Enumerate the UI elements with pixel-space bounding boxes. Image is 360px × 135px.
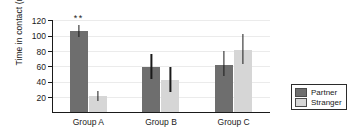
bar-wrapper bbox=[89, 20, 107, 112]
y-axis-title: Time in contact (min) bbox=[14, 0, 24, 80]
bar-chart-figure: Time in contact (min) 20406080100120**Gr… bbox=[0, 0, 360, 135]
error-bar bbox=[97, 91, 98, 101]
bar-group: **Group A bbox=[52, 20, 125, 112]
y-axis-tick-label: 40 bbox=[37, 77, 46, 87]
bar-wrapper bbox=[234, 20, 252, 112]
bar-group: Group C bbox=[197, 20, 270, 112]
legend-swatch-stranger bbox=[295, 98, 307, 107]
legend-label-stranger: Stranger bbox=[311, 98, 342, 107]
y-axis-tick-label: 80 bbox=[37, 47, 46, 57]
legend-item-partner: Partner bbox=[295, 87, 342, 97]
chart-legend: Partner Stranger bbox=[291, 84, 347, 110]
y-axis-tick-label: 100 bbox=[32, 31, 46, 41]
x-axis-label: Group A bbox=[73, 117, 104, 127]
y-axis-tick-label: 20 bbox=[37, 93, 46, 103]
error-bar bbox=[243, 34, 244, 64]
error-bar bbox=[78, 25, 79, 37]
bar-partner-group-a bbox=[70, 31, 88, 112]
y-axis-tick-label: 120 bbox=[32, 16, 46, 26]
plot-area: 20406080100120**Group AGroup BGroup C bbox=[52, 20, 270, 113]
bar-wrapper bbox=[215, 20, 233, 112]
legend-label-partner: Partner bbox=[311, 88, 337, 97]
bar-wrapper bbox=[142, 20, 160, 112]
significance-marker: ** bbox=[74, 14, 84, 23]
error-bar bbox=[224, 51, 225, 76]
y-axis-tick-label: 60 bbox=[37, 62, 46, 72]
x-axis-line bbox=[52, 112, 270, 113]
bar-wrapper: ** bbox=[70, 20, 88, 112]
error-bar bbox=[151, 54, 152, 79]
bar-group: Group B bbox=[125, 20, 198, 112]
bar-wrapper bbox=[161, 20, 179, 112]
legend-item-stranger: Stranger bbox=[295, 97, 342, 107]
x-axis-label: Group B bbox=[145, 117, 177, 127]
error-bar bbox=[170, 67, 171, 92]
x-axis-label: Group C bbox=[218, 117, 250, 127]
legend-swatch-partner bbox=[295, 88, 307, 97]
